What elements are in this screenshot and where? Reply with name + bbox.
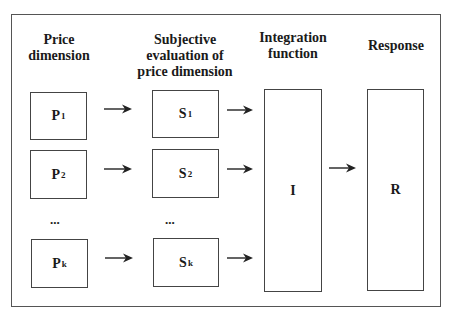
header-integration-function: Integration function (252, 30, 334, 62)
price-box-subscript: 2 (61, 170, 66, 180)
arrow-sk-to-integration (227, 253, 253, 263)
arrow-p1-to-s1 (104, 104, 132, 114)
price-box-subscript: 1 (61, 111, 66, 121)
header-response: Response (360, 38, 432, 54)
subjective-box-subscript: 1 (188, 109, 193, 119)
response-box: R (367, 89, 424, 291)
price-ellipsis: ... (50, 212, 60, 228)
arrow-p2-to-s2 (104, 164, 132, 174)
subjective-ellipsis: ... (165, 212, 175, 228)
arrow-s1-to-integration (227, 105, 253, 115)
price-box-letter: P (52, 256, 61, 272)
subjective-box-subscript: 2 (188, 169, 193, 179)
subjective-box-1: S1 (152, 90, 219, 138)
subjective-box-2: S2 (152, 149, 219, 198)
price-box-2: P2 (30, 150, 87, 199)
subjective-box-letter: S (179, 106, 187, 122)
integration-box: I (264, 89, 322, 292)
arrow-pk-to-sk (105, 253, 133, 263)
price-box-letter: P (51, 108, 60, 124)
integration-label: I (290, 183, 295, 199)
header-price-dimension: Price dimension (28, 32, 90, 64)
arrow-integration-to-response (329, 163, 356, 173)
price-box-subscript: k (62, 259, 67, 269)
response-label: R (390, 182, 400, 198)
subjective-box-letter: S (179, 166, 187, 182)
subjective-box-letter: S (179, 255, 187, 271)
header-subjective-evaluation: Subjective evaluation of price dimension (132, 32, 238, 80)
price-box-k: Pk (31, 239, 88, 288)
subjective-box-k: Sk (153, 238, 219, 287)
price-box-letter: P (51, 167, 60, 183)
price-box-1: P1 (30, 92, 87, 140)
subjective-box-subscript: k (188, 258, 193, 268)
arrow-s2-to-integration (227, 164, 253, 174)
